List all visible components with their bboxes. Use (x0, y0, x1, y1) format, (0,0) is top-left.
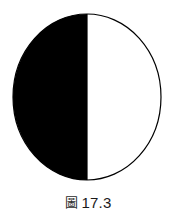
figure-illustration (0, 0, 176, 188)
half-shaded-circle-graphic (0, 0, 176, 188)
figure-page: 圖 17.3 (0, 0, 176, 216)
figure-caption: 圖 17.3 (0, 188, 176, 216)
figure-number: 17.3 (82, 195, 112, 210)
figure-label-cjk-icon: 圖 (65, 196, 78, 209)
